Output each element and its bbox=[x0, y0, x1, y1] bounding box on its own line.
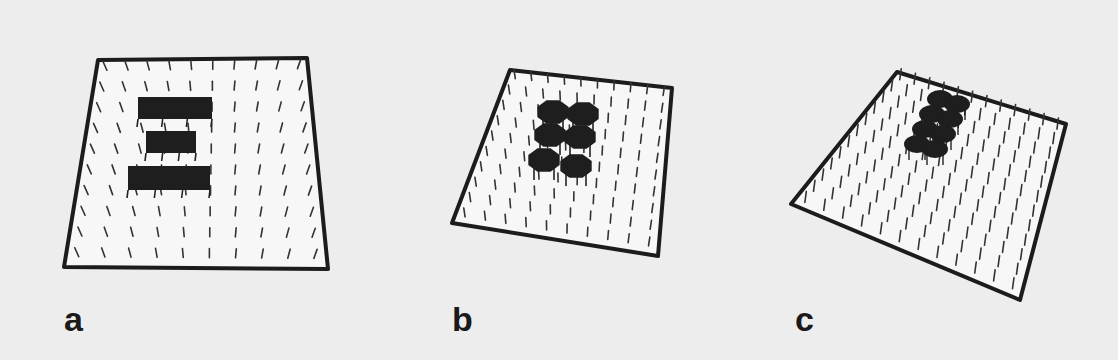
block-0 bbox=[537, 100, 568, 124]
block-3 bbox=[564, 125, 595, 149]
block-2 bbox=[128, 166, 210, 190]
panel-b bbox=[452, 70, 672, 256]
block-0 bbox=[138, 97, 212, 119]
panel-label-b: b bbox=[452, 302, 473, 336]
block-5 bbox=[560, 154, 591, 178]
model-photos bbox=[0, 0, 1118, 360]
block-7 bbox=[922, 140, 948, 158]
panel-label-a: a bbox=[64, 302, 83, 336]
block-4 bbox=[528, 148, 559, 172]
panel-c bbox=[791, 69, 1066, 300]
block-1 bbox=[146, 131, 196, 153]
block-1 bbox=[567, 102, 598, 126]
block-2 bbox=[534, 123, 565, 147]
figure-three-panels: a b c bbox=[0, 0, 1118, 360]
panel-a bbox=[64, 58, 328, 269]
panel-label-c: c bbox=[795, 302, 814, 336]
